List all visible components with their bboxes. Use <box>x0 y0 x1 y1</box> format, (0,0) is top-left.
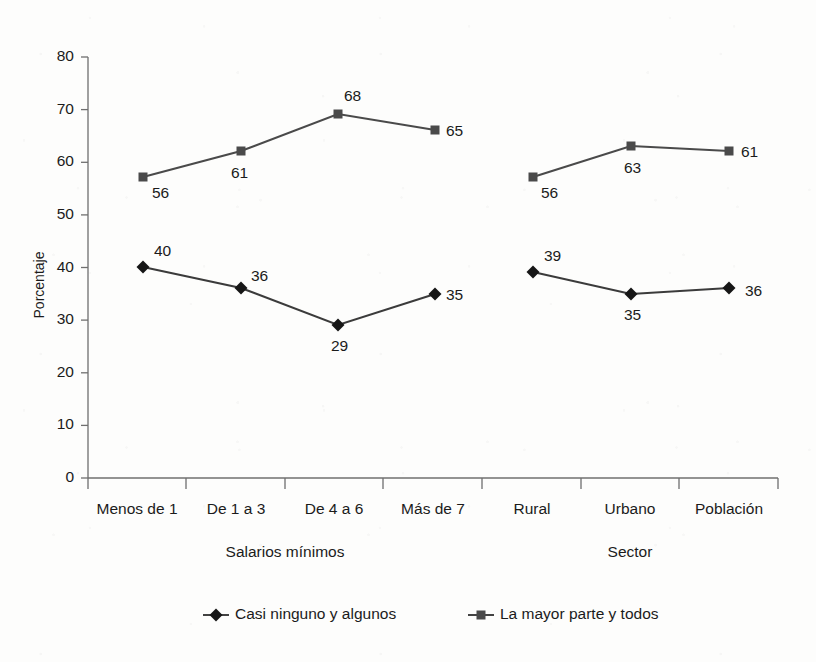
legend-label-series2: La mayor parte y todos <box>500 605 659 622</box>
y-axis-title: Porcentaje <box>31 251 47 318</box>
series1-line-segment-salarios <box>143 267 435 325</box>
series2-line-segment-salarios <box>143 114 435 177</box>
y-tick-label-20: 20 <box>57 363 75 380</box>
diamond-marker-icon <box>210 609 223 622</box>
series2-point-2 <box>334 110 343 119</box>
x-category-label-urbano: Urbano <box>605 500 656 517</box>
x-category-label-menos-de-1: Menos de 1 <box>97 500 178 517</box>
x-category-label-rural: Rural <box>513 500 550 517</box>
series2-data-label-6: 61 <box>741 143 758 160</box>
legend-item-la-mayor-parte-y-todos[interactable]: La mayor parte y todos <box>468 605 659 622</box>
y-axis: 80 70 60 50 40 30 20 10 0 Porcentaje <box>31 47 88 485</box>
series1-point-4 <box>527 266 540 279</box>
x-group-label-sector: Sector <box>608 543 653 560</box>
y-tick-label-0: 0 <box>65 468 74 485</box>
x-axis: Menos de 1 De 1 a 3 De 4 a 6 Más de 7 Ru… <box>88 478 778 560</box>
series1-point-2 <box>332 319 345 332</box>
series1-point-6 <box>723 282 736 295</box>
series2-point-4 <box>529 173 538 182</box>
series2-point-0 <box>139 173 148 182</box>
series2-data-label-1: 61 <box>231 164 248 181</box>
series1-data-label-3: 35 <box>446 286 463 303</box>
y-tick-label-80: 80 <box>57 47 75 64</box>
y-tick-label-30: 30 <box>57 310 75 327</box>
series2-data-label-4: 56 <box>541 184 558 201</box>
series2-data-label-5: 63 <box>624 159 641 176</box>
series1-point-0 <box>137 261 150 274</box>
x-axis-ticks <box>88 478 778 489</box>
x-category-label-de-4-a-6: De 4 a 6 <box>305 500 364 517</box>
series1-data-label-2: 29 <box>331 337 348 354</box>
x-category-label-mas-de-7: Más de 7 <box>401 500 465 517</box>
legend-label-series1: Casi ninguno y algunos <box>235 605 396 622</box>
series2-point-3 <box>431 126 440 135</box>
series1-point-5 <box>625 288 638 301</box>
legend-item-casi-ninguno-y-algunos[interactable]: Casi ninguno y algunos <box>203 605 396 622</box>
y-tick-label-60: 60 <box>57 152 75 169</box>
x-category-label-poblacion: Población <box>695 500 763 517</box>
y-axis-ticks <box>81 57 88 478</box>
y-tick-label-70: 70 <box>57 100 75 117</box>
x-category-label-de-1-a-3: De 1 a 3 <box>207 500 266 517</box>
series1-point-1 <box>235 282 248 295</box>
y-tick-label-40: 40 <box>57 258 75 275</box>
y-axis-tick-labels: 80 70 60 50 40 30 20 10 0 <box>57 47 75 485</box>
x-axis-group-labels: Salarios mínimos Sector <box>226 543 653 560</box>
series2-point-6 <box>725 147 734 156</box>
x-group-label-salarios-minimos: Salarios mínimos <box>226 543 345 560</box>
y-tick-label-10: 10 <box>57 415 75 432</box>
series1-data-label-5: 35 <box>624 306 641 323</box>
series2-data-label-2: 68 <box>344 87 361 104</box>
y-tick-label-50: 50 <box>57 205 75 222</box>
series-la-mayor-parte-y-todos: 56 61 68 65 56 63 61 <box>139 87 759 201</box>
series1-data-label-6: 36 <box>745 282 762 299</box>
series1-data-label-4: 39 <box>544 247 561 264</box>
series2-data-label-3: 65 <box>446 122 463 139</box>
chart-figure: 80 70 60 50 40 30 20 10 0 Porcentaje <box>0 0 816 662</box>
series1-point-3 <box>429 288 442 301</box>
square-marker-icon <box>477 611 486 620</box>
chart-legend: Casi ninguno y algunos La mayor parte y … <box>203 605 659 622</box>
series2-point-5 <box>627 142 636 151</box>
series-casi-ninguno-y-algunos: 40 36 29 35 39 35 36 <box>137 242 763 354</box>
series1-data-label-0: 40 <box>154 242 172 259</box>
x-axis-category-labels: Menos de 1 De 1 a 3 De 4 a 6 Más de 7 Ru… <box>97 500 764 517</box>
series2-point-1 <box>237 147 246 156</box>
line-chart-canvas: 80 70 60 50 40 30 20 10 0 Porcentaje <box>0 0 816 662</box>
series2-data-label-0: 56 <box>152 184 169 201</box>
series1-data-label-1: 36 <box>251 267 268 284</box>
